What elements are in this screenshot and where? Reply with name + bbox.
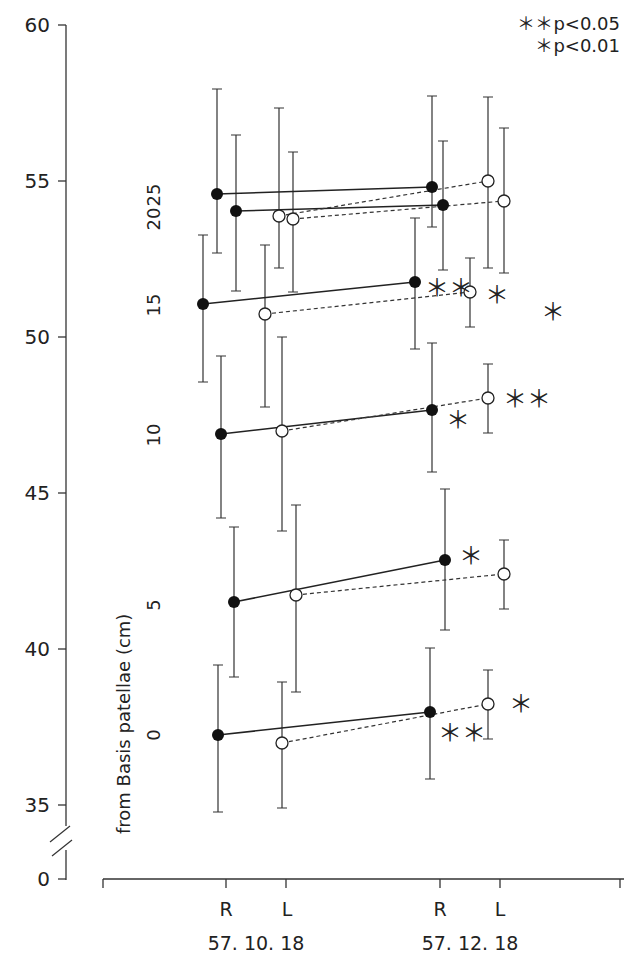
x-tick-l2: L: [495, 898, 506, 920]
l-lines: [265, 181, 504, 743]
x-tick-r2: R: [433, 898, 446, 920]
x-tick-l1: L: [282, 898, 293, 920]
series-label-0: 0: [143, 729, 164, 740]
sig-0-l2: ＊: [509, 690, 533, 718]
sig-5-r2: ＊: [459, 542, 483, 570]
r-lines: [203, 187, 445, 735]
series-labels: 25 20 15 10 5 0: [143, 184, 164, 741]
y-tick-40: 40: [25, 637, 50, 661]
x-tick-r1: R: [219, 898, 232, 920]
legend: ＊＊p<0.05 ＊p<0.01: [517, 13, 620, 56]
y-tick-labels: 60 55 50 45 40 35 0: [25, 13, 50, 891]
series-label-15: 15: [143, 294, 164, 317]
sig-15-l2: ＊: [485, 281, 509, 309]
y-axis-label: from Basis patellae (cm): [113, 614, 134, 834]
chart-canvas: 60 55 50 45 40 35 0 R L R L 57. 10. 18 5…: [0, 0, 636, 967]
sig-isolated: ＊: [541, 298, 565, 326]
y-axis: [50, 25, 72, 880]
date-label-2: 57. 12. 18: [422, 932, 519, 954]
series-label-5: 5: [143, 599, 164, 610]
l-markers: [259, 175, 510, 749]
axis-break-mark: [50, 826, 70, 842]
date-label-1: 57. 10. 18: [208, 932, 305, 954]
r-markers: [197, 181, 451, 741]
sig-15-r2: ＊＊: [425, 274, 473, 302]
y-tick-35: 35: [25, 793, 50, 817]
y-tick-50: 50: [25, 325, 50, 349]
sig-10-l2: ＊＊: [503, 385, 551, 413]
sig-0-r2: ＊＊: [438, 719, 486, 747]
y-tick-45: 45: [25, 481, 50, 505]
y-tick-0: 0: [37, 867, 50, 891]
series-label-20: 20: [143, 208, 164, 231]
series-label-10: 10: [143, 424, 164, 447]
series-label-25: 25: [143, 184, 164, 207]
error-bars: [198, 89, 509, 812]
y-tick-55: 55: [25, 169, 50, 193]
legend-single-star: ＊p<0.01: [535, 35, 620, 56]
significance-marks: ＊＊ ＊ ＊ ＊ ＊＊ ＊ ＊＊ ＊: [425, 274, 565, 747]
x-axis: [103, 879, 624, 888]
y-tick-60: 60: [25, 13, 50, 37]
sig-10-r2: ＊: [446, 406, 470, 434]
legend-double-star: ＊＊p<0.05: [517, 13, 620, 34]
axis-break-mark: [52, 840, 72, 856]
x-tick-labels: R L R L 57. 10. 18 57. 12. 18: [208, 898, 519, 954]
